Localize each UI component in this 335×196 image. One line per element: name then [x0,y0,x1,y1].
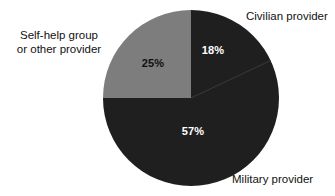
pie-chart-figure: 18% 25% 57% Civilian provider Self-help … [0,0,335,196]
pie-slice-selfhelp[interactable] [103,10,191,98]
pie-category-label-selfhelp-line2: or other provider [6,42,112,56]
pie-value-label-selfhelp: 25% [142,57,165,69]
pie-category-label-selfhelp-line1: Self-help group [6,28,112,42]
pie-category-label-civilian: Civilian provider [246,9,328,23]
pie-value-label-military: 57% [182,125,205,137]
pie-value-label-civilian: 18% [202,44,225,56]
pie-category-label-selfhelp: Self-help group or other provider [6,28,112,56]
pie-category-label-military: Military provider [232,172,313,186]
